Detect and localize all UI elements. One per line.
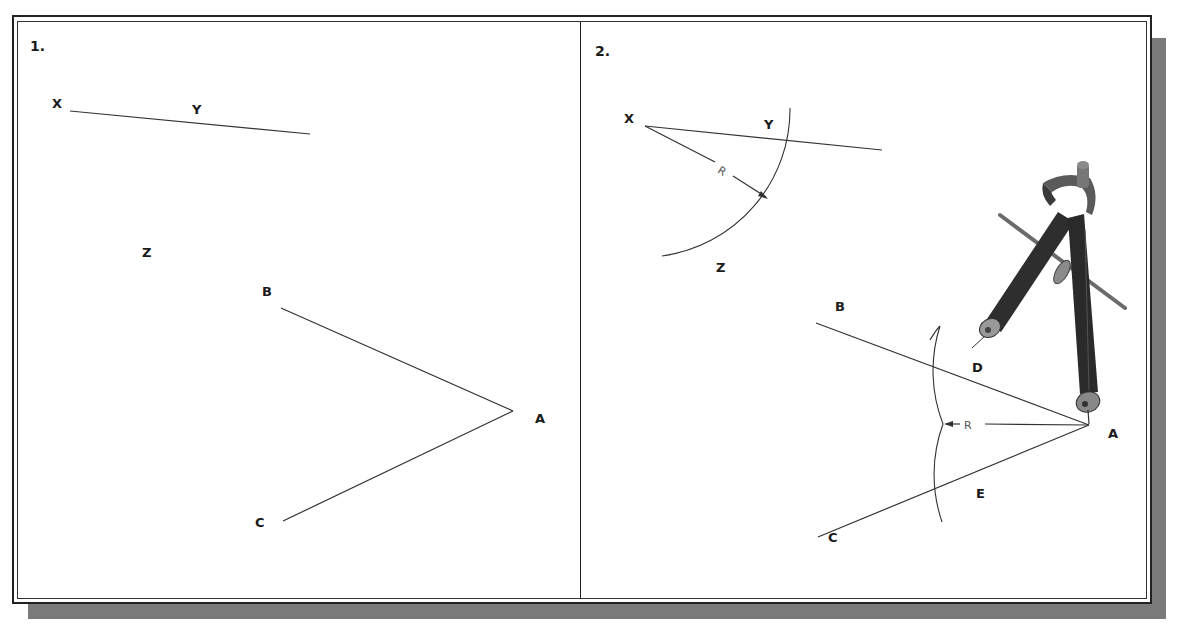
point-a-label: A — [535, 411, 545, 426]
point-z-label: Z — [142, 245, 151, 260]
point-x-label: X — [52, 96, 62, 111]
construction-figure: 1. X Y Z B A C 2. X Y R Z — [0, 0, 1179, 635]
point-y-label: Y — [763, 117, 774, 132]
compass-icon — [972, 161, 1125, 424]
radius-label-top: R — [715, 164, 729, 179]
ray-ac — [283, 411, 513, 521]
point-e-label: E — [976, 486, 985, 501]
point-z-label: Z — [716, 260, 725, 275]
arc-from-a — [930, 326, 943, 522]
ray-ab — [281, 308, 513, 411]
radius-leader-1a — [645, 126, 715, 162]
segment-xy — [70, 111, 310, 134]
point-c-label: C — [255, 515, 265, 530]
panel-1: 1. X Y Z B A C — [30, 38, 545, 530]
step-1-label: 1. — [30, 38, 45, 54]
radius-label-bottom: R — [964, 419, 972, 432]
arrowhead-icon — [944, 421, 953, 427]
ray-ac — [818, 425, 1089, 537]
point-d-label: D — [972, 360, 983, 375]
radius-leader-2b — [985, 424, 1089, 425]
point-y-label: Y — [191, 102, 202, 117]
step-2-label: 2. — [595, 43, 610, 59]
point-a-label: A — [1108, 426, 1118, 441]
point-c-label: C — [828, 530, 838, 545]
point-b-label: B — [835, 299, 845, 314]
point-x-label: X — [624, 111, 634, 126]
panel-2: 2. X Y R Z B C A D E — [595, 43, 1125, 545]
point-b-label: B — [262, 284, 272, 299]
ray-ab — [816, 323, 1089, 425]
